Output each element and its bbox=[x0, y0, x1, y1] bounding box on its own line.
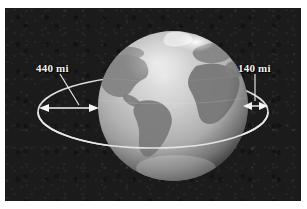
globe-diagram-svg bbox=[0, 0, 307, 209]
callout-440mi bbox=[39, 74, 99, 112]
globe-landmasses bbox=[98, 31, 249, 181]
label-440mi: 440 mi bbox=[36, 62, 69, 74]
arrowhead-right-440mi bbox=[89, 104, 99, 112]
figure-root: 440 mi 140 mi bbox=[0, 0, 307, 209]
earth-globe bbox=[98, 31, 249, 181]
label-140mi: 140 mi bbox=[238, 62, 271, 74]
